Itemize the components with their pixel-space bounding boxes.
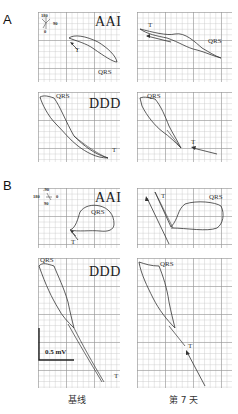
t-label: T xyxy=(188,342,192,350)
vector-loop-a-ddd-baseline xyxy=(38,92,120,162)
t-label: T xyxy=(75,46,79,54)
scale-bar-label: 0.5 mV xyxy=(45,348,66,356)
t-label: T xyxy=(114,372,118,380)
vector-loop-b-aai-baseline xyxy=(38,188,120,248)
t-label: T xyxy=(148,21,152,29)
qrs-label: QRS xyxy=(209,193,223,201)
t-label: T xyxy=(191,138,195,146)
panel-b-letter: B xyxy=(3,178,12,193)
scale-bar xyxy=(38,328,78,362)
qrs-label: QRS xyxy=(40,256,54,264)
qrs-label: QRS xyxy=(98,68,112,76)
t-label: T xyxy=(161,192,165,200)
qrs-label: QRS xyxy=(208,37,222,45)
caption-baseline: 基线 xyxy=(68,393,86,406)
t-label: T xyxy=(112,146,116,154)
qrs-label: QRS xyxy=(160,260,174,268)
vector-loop-a-ddd-day7 xyxy=(137,92,232,162)
qrs-label: QRS xyxy=(56,92,70,100)
qrs-label: QRS xyxy=(147,92,161,100)
vector-loop-b-ddd-day7 xyxy=(137,258,232,388)
vector-loop-b-ddd-baseline xyxy=(38,258,120,388)
caption-day7: 第 7 天 xyxy=(169,393,198,406)
panel-a-letter: A xyxy=(3,12,12,27)
qrs-label: QRS xyxy=(91,208,105,216)
t-label: T xyxy=(71,238,75,246)
